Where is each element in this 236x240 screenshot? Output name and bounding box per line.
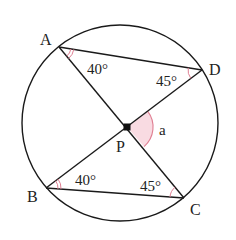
angle-label-DAC: 40°: [87, 61, 108, 77]
angle-mark-D: [188, 68, 191, 79]
angle-mark-C: [170, 187, 175, 197]
angle-label-a: a: [159, 122, 166, 138]
geometry-diagram: A D B C P 40° 45° 40° 45° a: [0, 0, 236, 240]
label-A: A: [40, 31, 52, 48]
label-P: P: [116, 138, 125, 155]
circle: [22, 25, 218, 221]
label-B: B: [27, 188, 38, 205]
segment-AD: [59, 47, 202, 70]
angle-label-ADB: 45°: [156, 73, 177, 89]
segment-BC: [46, 188, 184, 198]
label-D: D: [209, 61, 221, 78]
label-C: C: [190, 201, 201, 218]
angle-label-DBC: 40°: [75, 172, 96, 188]
angle-label-BCA: 45°: [140, 178, 161, 194]
point-P-marker: [124, 124, 131, 131]
